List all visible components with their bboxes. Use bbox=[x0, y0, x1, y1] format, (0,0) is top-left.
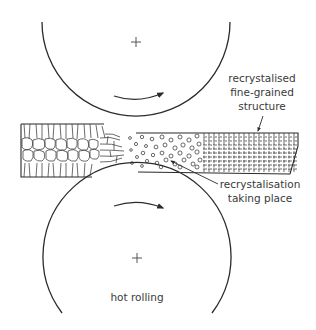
caption-hot-rolling: hot rolling bbox=[110, 291, 163, 303]
label-line-1: recrystalised bbox=[228, 72, 295, 84]
label-line-2: fine-grained bbox=[230, 86, 294, 98]
label-recrystalisation: recrystalisation taking place bbox=[171, 161, 300, 204]
label-recrystalised-structure: recrystalised fine-grained structure bbox=[228, 72, 295, 131]
metal-strip bbox=[21, 124, 298, 177]
label-line-3: structure bbox=[238, 100, 286, 112]
hot-rolling-diagram: recrystalised fine-grained structure rec… bbox=[0, 0, 316, 330]
rotation-arrow-icon bbox=[114, 93, 163, 99]
pointer-arrow-icon bbox=[258, 116, 263, 131]
center-cross-icon bbox=[132, 253, 142, 263]
center-cross-icon bbox=[131, 37, 141, 47]
label-line-2: taking place bbox=[228, 192, 292, 204]
label-line-1: recrystalisation bbox=[220, 178, 301, 190]
rotation-arrow-icon bbox=[114, 202, 163, 208]
top-roller bbox=[42, 22, 230, 116]
